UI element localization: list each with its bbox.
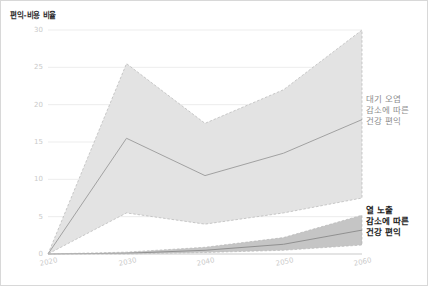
annotation-heat-exposure: 열 노출 감소에 따른 건강 편익: [366, 205, 409, 238]
annotation-air-line-3: 건강 편익: [366, 116, 409, 127]
annotation-heat-line-2: 감소에 따른: [366, 216, 409, 227]
y-tick-label-0: 0: [39, 250, 43, 258]
band-series-0: [48, 30, 362, 254]
chart-canvas: [48, 30, 362, 254]
y-tick-label-25: 25: [34, 63, 43, 71]
y-tick-label-30: 30: [34, 26, 43, 34]
plot-area: 051015202530 20202030204020502060: [48, 30, 362, 254]
annotation-air-line-1: 대기 오염: [366, 94, 409, 105]
annotation-heat-line-1: 열 노출: [366, 205, 409, 216]
series-bands: [48, 30, 362, 254]
y-tick-label-10: 10: [34, 175, 43, 183]
annotation-air-pollution: 대기 오염 감소에 따른 건강 편익: [366, 94, 409, 127]
page-title: 편익-비용 비율: [10, 9, 56, 20]
y-tick-label-5: 5: [39, 213, 43, 221]
y-tick-label-15: 15: [34, 138, 43, 146]
annotation-heat-line-3: 건강 편익: [366, 227, 409, 238]
annotation-air-line-2: 감소에 따른: [366, 105, 409, 116]
y-tick-label-20: 20: [34, 101, 43, 109]
